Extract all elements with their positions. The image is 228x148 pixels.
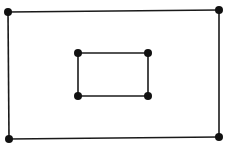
outer-edge [9, 137, 219, 139]
outer-edge [8, 10, 219, 12]
inner-node [74, 92, 82, 100]
edges [8, 10, 219, 139]
outer-node [215, 6, 223, 14]
inner-node [144, 92, 152, 100]
outer-node [215, 133, 223, 141]
nodes [4, 6, 223, 143]
outer-node [4, 8, 12, 16]
graph-diagram [0, 0, 228, 148]
inner-node [144, 49, 152, 57]
outer-edge [8, 12, 9, 139]
inner-node [74, 49, 82, 57]
outer-node [5, 135, 13, 143]
